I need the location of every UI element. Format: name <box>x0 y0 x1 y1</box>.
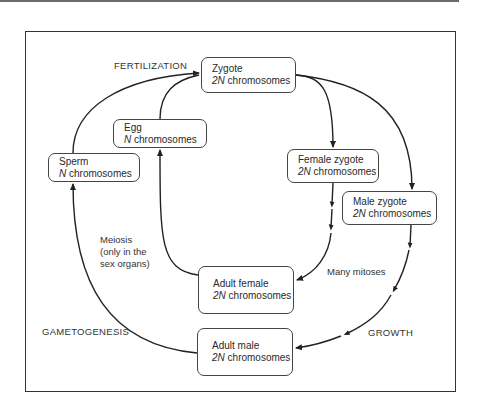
node-female-zygote: Female zygote 2N chromosomes <box>287 149 379 183</box>
node-title: Female zygote <box>298 154 378 166</box>
label-fertilization: FERTILIZATION <box>114 60 187 72</box>
arrow-female-to-adult <box>332 183 333 205</box>
node-zygote: Zygote 2N chromosomes <box>201 57 296 93</box>
ploidy: 2N <box>353 208 366 219</box>
node-sperm: Sperm N chromosomes <box>48 153 140 182</box>
arrow-male-to-adult <box>410 225 411 246</box>
node-title: Male zygote <box>353 196 436 208</box>
ploidy: 2N <box>298 166 311 177</box>
node-title: Sperm <box>59 156 139 168</box>
ploidy: 2N <box>212 75 225 86</box>
arrow-egg-to-zygote <box>160 75 199 119</box>
ploidy: 2N <box>213 290 226 301</box>
node-title: Adult female <box>213 278 293 290</box>
node-title: Zygote <box>212 63 295 75</box>
arrow-zygote-to-female <box>296 75 333 147</box>
node-adult-male: Adult male 2N chromosomes <box>197 328 293 376</box>
node-adult-female: Adult female 2N chromosomes <box>198 266 294 314</box>
label-gametogenesis: GAMETOGENESIS <box>42 326 129 338</box>
node-male-zygote: Male zygote 2N chromosomes <box>342 191 437 225</box>
label-growth: GROWTH <box>368 327 413 339</box>
label-meiosis: Meiosis (only in the sex organs) <box>100 234 150 270</box>
ploidy: 2N <box>212 352 225 363</box>
node-title: Egg <box>124 122 206 134</box>
node-title: Adult male <box>212 340 292 352</box>
arrow-adult-female-to-egg <box>160 150 198 275</box>
label-many-mitoses: Many mitoses <box>327 266 386 278</box>
node-egg: Egg N chromosomes <box>113 119 207 148</box>
